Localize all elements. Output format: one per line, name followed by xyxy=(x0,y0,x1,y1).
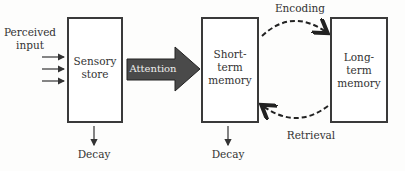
long-term-line2: term xyxy=(332,64,386,77)
short-term-line1: Short- xyxy=(203,48,257,61)
sensory-store-label: Sensory store xyxy=(69,55,121,81)
perceived-input-line2: input xyxy=(2,39,58,52)
retrieval-arrow-icon xyxy=(263,106,328,118)
short-term-memory-box: Short- term memory xyxy=(201,17,259,123)
sensory-store-line2: store xyxy=(69,68,121,81)
sensory-store-box: Sensory store xyxy=(67,17,123,123)
short-term-line2: term xyxy=(203,61,257,74)
short-term-line3: memory xyxy=(203,74,257,87)
long-term-line3: memory xyxy=(332,77,386,90)
diagram-canvas: Perceived input Sensory store Attention … xyxy=(0,0,405,171)
sensory-store-line1: Sensory xyxy=(69,55,121,68)
long-term-memory-label: Long- term memory xyxy=(332,51,386,90)
decay-label-short-term: Decay xyxy=(208,148,248,161)
retrieval-label: Retrieval xyxy=(284,129,338,142)
attention-label: Attention xyxy=(127,63,179,75)
perceived-input-label: Perceived input xyxy=(2,26,58,52)
input-arrows xyxy=(42,57,64,81)
short-term-memory-label: Short- term memory xyxy=(203,48,257,87)
long-term-memory-box: Long- term memory xyxy=(330,17,388,123)
long-term-line1: Long- xyxy=(332,51,386,64)
encoding-arrow-icon xyxy=(262,21,326,36)
decay-label-sensory: Decay xyxy=(74,148,114,161)
perceived-input-line1: Perceived xyxy=(2,26,58,39)
encoding-label: Encoding xyxy=(274,2,326,15)
